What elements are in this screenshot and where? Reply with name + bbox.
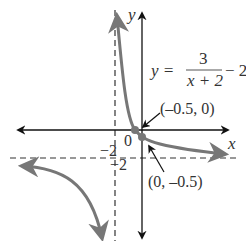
leader-y-intercept — [149, 146, 164, 172]
equation-lhs: y = — [151, 61, 174, 81]
x-axis-label: x — [228, 134, 236, 154]
curve-left-branch — [22, 166, 102, 238]
leader-x-intercept — [143, 113, 160, 127]
point-y-intercept — [138, 133, 146, 141]
equation-suffix: − 2 — [225, 61, 246, 81]
graph-canvas — [0, 0, 246, 241]
point-x-intercept — [131, 126, 139, 134]
y-axis-label: y — [128, 5, 136, 25]
point-label-x-intercept: (–0.5, 0) — [160, 100, 215, 118]
point-label-y-intercept: (0, –0.5) — [148, 173, 203, 191]
origin-label: 0 — [124, 132, 132, 150]
equation-numerator: 3 — [199, 49, 208, 69]
equation-denominator: x + 2 — [187, 71, 223, 91]
horizontal-asymptote-label: −2 — [110, 156, 127, 174]
